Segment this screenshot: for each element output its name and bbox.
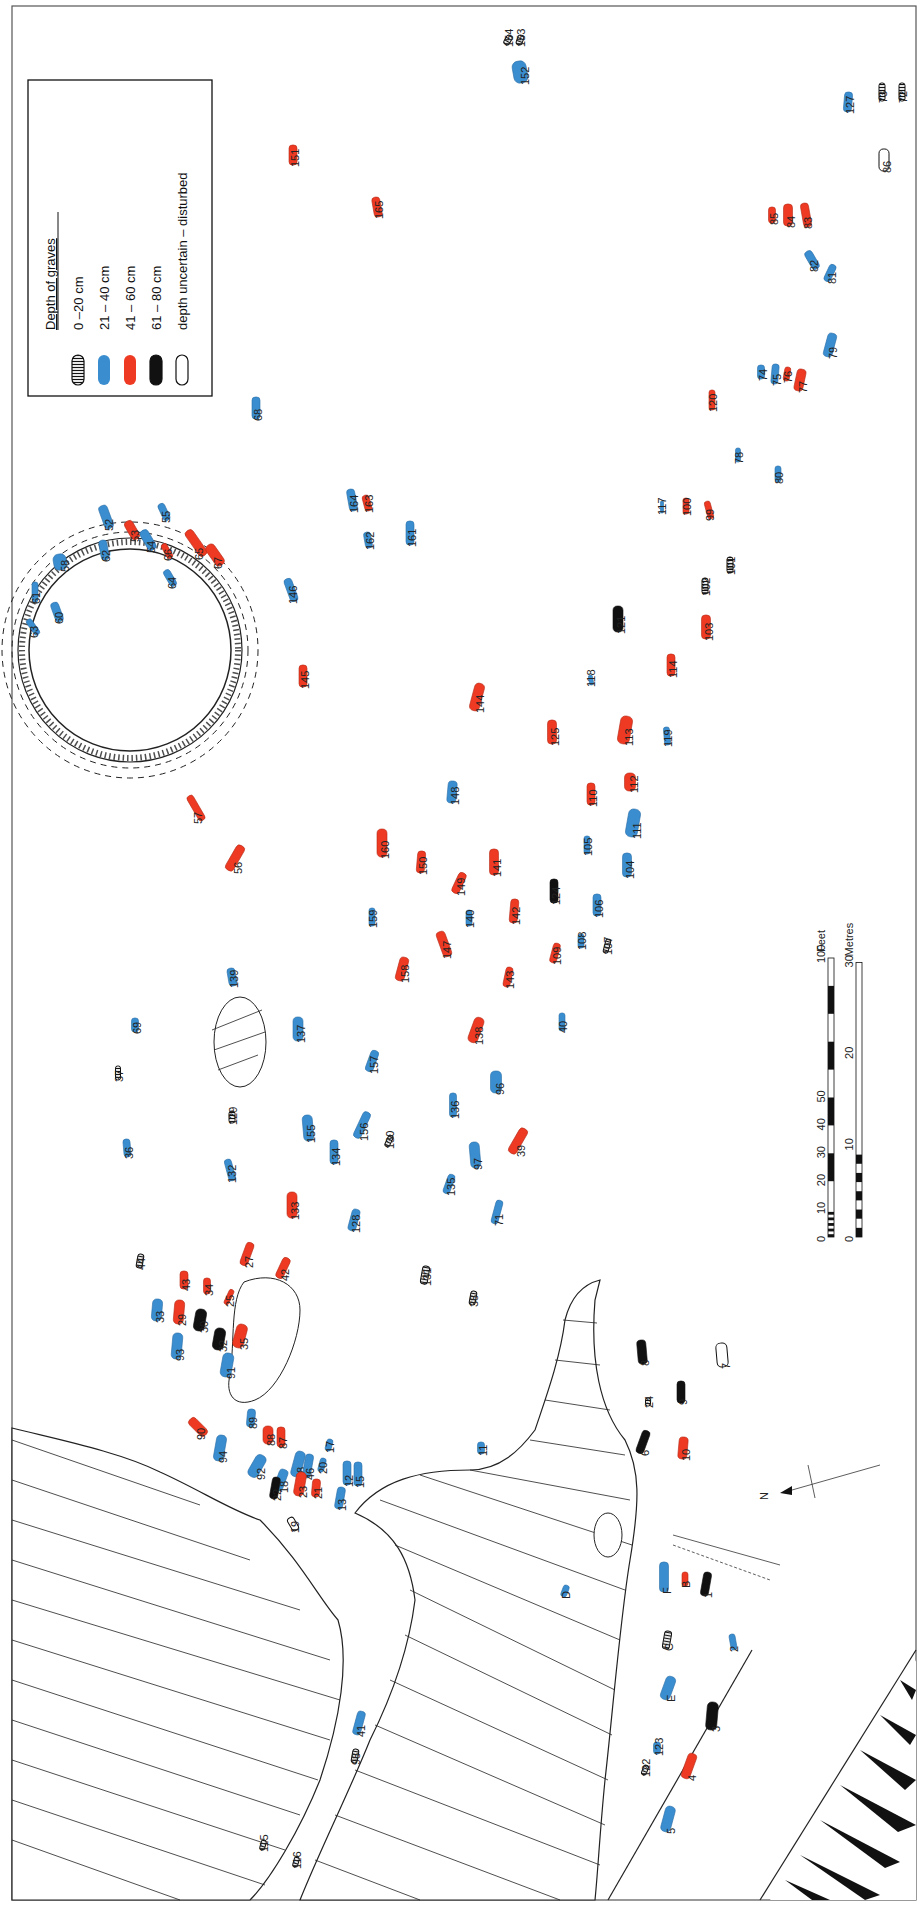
grave-90[interactable]: 90 xyxy=(187,1416,209,1440)
grave-17[interactable]: 17 xyxy=(324,1438,336,1453)
grave-88[interactable]: 88 xyxy=(263,1426,277,1446)
grave-19[interactable]: 19 xyxy=(286,1516,300,1533)
grave-7[interactable]: 7 xyxy=(715,1343,731,1369)
grave-76[interactable]: 76 xyxy=(782,367,794,383)
grave-99[interactable]: 99 xyxy=(704,501,716,521)
grave-102[interactable]: 102 xyxy=(700,578,712,596)
grave-21[interactable]: 21 xyxy=(311,1479,324,1499)
grave-56[interactable]: 56 xyxy=(224,844,246,874)
grave-5[interactable]: 5 xyxy=(660,1805,677,1834)
grave-75[interactable]: 75 xyxy=(771,364,783,386)
grave-107[interactable]: 107 xyxy=(602,937,614,955)
grave-94[interactable]: 94 xyxy=(213,1434,229,1463)
grave-33[interactable]: 33 xyxy=(151,1299,166,1323)
grave-73[interactable]: 73 xyxy=(877,83,889,103)
grave-E[interactable]: E xyxy=(659,1675,677,1702)
grave-154[interactable]: 154 xyxy=(503,29,515,47)
grave-164[interactable]: 164 xyxy=(346,488,360,513)
grave-36[interactable]: 36 xyxy=(123,1139,135,1159)
grave-156[interactable]: 156 xyxy=(352,1111,371,1141)
grave-35[interactable]: 35 xyxy=(232,1323,250,1350)
grave-134[interactable]: 134 xyxy=(330,1140,342,1166)
grave-39[interactable]: 39 xyxy=(507,1127,529,1157)
grave-98[interactable]: 98 xyxy=(350,1749,362,1765)
grave-B[interactable]: B xyxy=(680,1572,692,1588)
grave-1[interactable]: 1 xyxy=(700,1571,714,1598)
grave-9[interactable]: 9 xyxy=(677,1381,689,1405)
grave-8[interactable]: 8 xyxy=(636,1340,650,1366)
grave-151[interactable]: 151 xyxy=(289,145,301,167)
grave-100[interactable]: 100 xyxy=(681,498,693,516)
grave-55[interactable]: 55 xyxy=(157,502,171,523)
grave-121[interactable]: 121 xyxy=(613,606,627,634)
grave-79[interactable]: 79 xyxy=(823,332,839,359)
grave-43[interactable]: 43 xyxy=(180,1271,192,1291)
grave-149[interactable]: 149 xyxy=(451,871,468,896)
grave-112[interactable]: 112 xyxy=(625,773,640,793)
grave-93[interactable]: 93 xyxy=(171,1333,186,1361)
grave-122[interactable]: 122 xyxy=(640,1759,652,1777)
grave-2[interactable]: 2 xyxy=(728,1634,740,1652)
grave-109[interactable]: 109 xyxy=(549,942,562,965)
grave-142[interactable]: 142 xyxy=(509,899,522,925)
grave-116[interactable]: 116 xyxy=(291,1851,303,1869)
grave-159[interactable]: 159 xyxy=(367,908,379,928)
grave-143[interactable]: 143 xyxy=(502,966,515,989)
grave-60[interactable]: 60 xyxy=(50,601,65,624)
grave-150[interactable]: 150 xyxy=(416,851,429,875)
grave-130[interactable]: 130 xyxy=(384,1131,396,1149)
grave-119[interactable]: 119 xyxy=(662,727,674,747)
grave-157[interactable]: 157 xyxy=(364,1049,380,1074)
grave-81[interactable]: 81 xyxy=(823,263,837,284)
grave-96[interactable]: 96 xyxy=(491,1071,506,1095)
grave-71[interactable]: 71 xyxy=(491,1200,505,1226)
grave-83[interactable]: 83 xyxy=(800,202,814,229)
grave-78[interactable]: 78 xyxy=(733,448,745,464)
grave-86[interactable]: 86 xyxy=(879,149,893,173)
grave-37[interactable]: 37 xyxy=(113,1066,125,1082)
grave-27[interactable]: 27 xyxy=(239,1241,255,1268)
grave-162[interactable]: 162 xyxy=(363,532,375,550)
grave-F[interactable]: F xyxy=(660,1562,673,1594)
grave-82[interactable]: 82 xyxy=(804,249,821,272)
grave-148[interactable]: 148 xyxy=(447,781,461,805)
grave-127[interactable]: 127 xyxy=(843,92,856,114)
grave-97[interactable]: 97 xyxy=(469,1142,484,1170)
grave-115[interactable]: 115 xyxy=(258,1834,270,1852)
grave-44[interactable]: 44 xyxy=(135,1254,147,1270)
grave-120[interactable]: 120 xyxy=(707,390,719,412)
grave-131[interactable]: 131 xyxy=(420,1266,433,1286)
grave-114[interactable]: 114 xyxy=(667,654,679,678)
grave-133[interactable]: 133 xyxy=(287,1192,301,1220)
grave-123[interactable]: 123 xyxy=(653,1738,665,1756)
grave-106[interactable]: 106 xyxy=(593,894,605,918)
grave-15[interactable]: 15 xyxy=(354,1462,366,1488)
grave-57[interactable]: 57 xyxy=(186,794,206,824)
grave-62[interactable]: 62 xyxy=(98,539,112,562)
grave-128[interactable]: 128 xyxy=(347,1208,362,1233)
grave-91[interactable]: 91 xyxy=(219,1352,236,1379)
grave-132[interactable]: 132 xyxy=(224,1158,238,1183)
grave-160[interactable]: 160 xyxy=(377,829,391,859)
grave-38[interactable]: 38 xyxy=(468,1291,480,1307)
grave-67[interactable]: 67 xyxy=(204,542,226,569)
grave-42[interactable]: 42 xyxy=(275,1256,292,1281)
grave-74[interactable]: 74 xyxy=(757,365,769,381)
grave-68[interactable]: 68 xyxy=(252,397,264,421)
grave-139[interactable]: 139 xyxy=(226,967,240,988)
grave-52[interactable]: 52 xyxy=(98,504,115,531)
grave-144[interactable]: 144 xyxy=(469,682,486,713)
grave-13[interactable]: 13 xyxy=(334,1486,348,1511)
grave-20[interactable]: 20 xyxy=(317,1457,329,1474)
grave-41[interactable]: 41 xyxy=(352,1710,367,1737)
grave-158[interactable]: 158 xyxy=(395,956,411,983)
grave-135[interactable]: 135 xyxy=(442,1173,456,1196)
grave-103[interactable]: 103 xyxy=(702,615,715,641)
grave-161[interactable]: 161 xyxy=(406,521,418,547)
grave-146[interactable]: 146 xyxy=(283,577,299,604)
grave-125[interactable]: 125 xyxy=(548,720,561,746)
grave-87[interactable]: 87 xyxy=(277,1427,289,1449)
grave-25[interactable]: 25 xyxy=(223,1289,235,1307)
grave-155[interactable]: 155 xyxy=(302,1115,317,1143)
grave-4[interactable]: 4 xyxy=(680,1752,697,1781)
